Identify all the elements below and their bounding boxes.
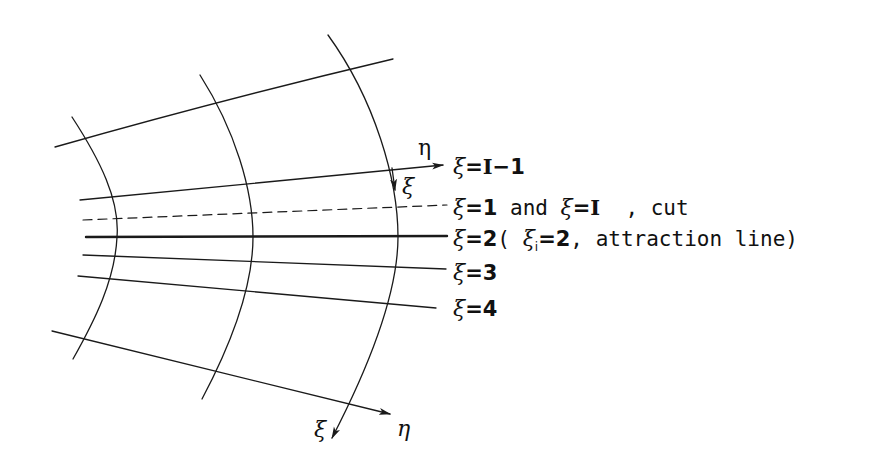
eta-line-top	[55, 59, 393, 147]
xi-symbol: ξ	[453, 260, 465, 285]
eta-line-xi-3	[83, 255, 446, 269]
eta-line-bottom	[52, 331, 390, 414]
label-xi-I-minus-1: ξ=I−1	[453, 156, 525, 178]
eta-axis-label-top: η	[418, 137, 431, 159]
eta-line-cut-dashed	[83, 205, 447, 220]
xi-axis-label-top: ξ	[402, 176, 414, 198]
xi-symbol: ξ	[453, 296, 465, 321]
xi-symbol: ξ	[453, 195, 465, 220]
xi-symbol: ξ	[453, 226, 465, 251]
eta-line-xi-I-minus-1	[80, 165, 443, 200]
label-xi-3: ξ=3	[453, 262, 497, 284]
eta-axis-label-bottom: η	[397, 418, 410, 440]
label-xi-4: ξ=4	[453, 298, 497, 320]
eta-line-attraction-thick	[86, 236, 447, 237]
xi-symbol: ξ	[523, 226, 535, 251]
eta-line-xi-4	[78, 276, 436, 308]
xi-symbol: ξ	[453, 154, 465, 179]
label-xi-1-and-I-cut: ξ=1 and ξ=I , cut	[453, 197, 689, 219]
label-xi-2-attraction-line: ξ=2( ξi=2, attraction line)	[453, 228, 798, 253]
xi-axis-label-bottom: ξ	[314, 419, 326, 441]
xi-symbol: ξ	[561, 195, 573, 220]
